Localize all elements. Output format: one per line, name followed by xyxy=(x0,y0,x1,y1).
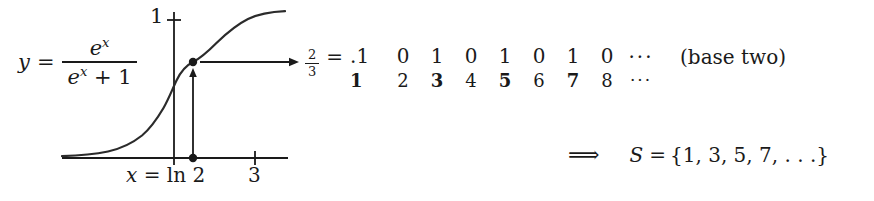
index-2: 2 xyxy=(397,69,408,92)
digit-column-2: 0 2 xyxy=(386,44,420,92)
digit-column-6: 0 6 xyxy=(522,44,556,92)
bit-5: 1 xyxy=(499,44,512,69)
indices-ellipsis: ··· xyxy=(630,70,652,91)
set-value: {1, 3, 5, 7, . . .} xyxy=(670,143,829,167)
bits-ellipsis: ··· xyxy=(629,45,654,70)
digit-column-3: 1 3 xyxy=(420,44,454,92)
bit-7: 1 xyxy=(567,44,580,69)
set-equals-sign: = xyxy=(649,143,666,167)
index-3: 3 xyxy=(431,69,444,92)
digit-column-1: .1 1 xyxy=(350,44,386,92)
two-thirds-denominator: 3 xyxy=(305,64,319,79)
conclusion-line: ⟹ S = {1, 3, 5, 7, . . .} xyxy=(568,142,829,167)
bit-4: 0 xyxy=(465,44,478,69)
digit-column-7: 1 7 xyxy=(556,44,590,92)
math-figure: y = ex ex + 1 xyxy=(0,0,874,201)
index-6: 6 xyxy=(533,69,544,92)
vertical-arrow-head xyxy=(189,68,197,77)
x-axis-label: x = ln 2 xyxy=(126,163,205,187)
bit-8: 0 xyxy=(601,44,614,69)
x-axis-label-variable: x xyxy=(126,163,137,187)
bit-3: 1 xyxy=(431,44,444,69)
bit-1: .1 xyxy=(350,44,369,69)
index-5: 5 xyxy=(499,69,512,92)
binary-digit-grid: .1 1 0 2 1 3 0 4 1 5 0 6 xyxy=(350,44,658,92)
index-4: 4 xyxy=(465,69,476,92)
two-thirds-numerator: 2 xyxy=(305,48,319,63)
binary-expansion: 2 3 = .1 1 0 2 1 3 0 4 1 xyxy=(305,44,786,92)
logistic-curve-plot: 1 x = ln 2 3 xyxy=(0,0,320,201)
horizontal-arrow-head xyxy=(289,58,299,66)
x-axis-label-value: = ln 2 xyxy=(144,163,205,187)
implies-arrow-icon: ⟹ xyxy=(568,142,600,167)
digit-column-5: 1 5 xyxy=(488,44,522,92)
bit-6: 0 xyxy=(533,44,546,69)
x-axis-point-ln2 xyxy=(189,154,197,162)
expansion-equals-sign: = xyxy=(326,44,343,69)
x-axis-tick-3-label: 3 xyxy=(248,163,261,187)
base-two-note: (base two) xyxy=(680,44,786,69)
bit-2: 0 xyxy=(397,44,410,69)
digit-column-4: 0 4 xyxy=(454,44,488,92)
index-8: 8 xyxy=(601,69,612,92)
curve-point-two-thirds xyxy=(189,58,197,66)
two-thirds-fraction: 2 3 xyxy=(305,48,319,78)
index-7: 7 xyxy=(567,69,580,92)
digit-column-ellipsis: ··· ··· xyxy=(624,45,658,91)
set-name-label: S xyxy=(630,143,644,167)
digit-column-8: 0 8 xyxy=(590,44,624,92)
y-axis-tick-label: 1 xyxy=(150,4,163,28)
index-1: 1 xyxy=(350,69,363,92)
